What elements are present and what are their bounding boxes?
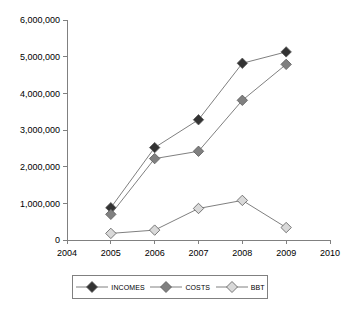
data-point-marker — [149, 225, 159, 235]
data-point-marker — [237, 195, 247, 205]
data-point-marker — [281, 47, 291, 57]
data-point-marker — [106, 209, 116, 219]
chart-container: 01,000,0002,000,0003,000,0004,000,0005,0… — [0, 0, 341, 312]
y-axis-tick-label: 3,000,000 — [20, 125, 60, 135]
data-point-marker — [237, 58, 247, 68]
legend-key-bbt — [215, 280, 249, 294]
x-axis-tick-label: 2007 — [188, 248, 208, 258]
data-series-group — [106, 47, 292, 239]
y-axis: 01,000,0002,000,0003,000,0004,000,0005,0… — [20, 15, 67, 245]
legend-label-costs: COSTS — [185, 284, 210, 291]
x-axis-tick-label: 2004 — [57, 248, 77, 258]
legend-entry-incomes: INCOMES — [75, 280, 144, 294]
y-axis-tick-label: 1,000,000 — [20, 199, 60, 209]
series-line-incomes — [111, 52, 286, 208]
x-axis-tick-label: 2009 — [276, 248, 296, 258]
y-axis-tick-label: 0 — [55, 235, 60, 245]
y-axis-tick-label: 2,000,000 — [20, 162, 60, 172]
data-point-marker — [281, 222, 291, 232]
data-point-marker — [281, 59, 291, 69]
series-line-costs — [111, 64, 286, 214]
legend-key-incomes — [75, 280, 109, 294]
data-point-marker — [149, 153, 159, 163]
line-chart-plot: 01,000,0002,000,0003,000,0004,000,0005,0… — [0, 0, 341, 312]
x-axis-tick-label: 2010 — [320, 248, 340, 258]
legend-entry-costs: COSTS — [149, 280, 210, 294]
legend-label-incomes: INCOMES — [111, 284, 144, 291]
x-axis-tick-label: 2005 — [101, 248, 121, 258]
x-axis-tick-label: 2008 — [232, 248, 252, 258]
data-point-marker — [193, 203, 203, 213]
legend-key-costs — [149, 280, 183, 294]
x-axis: 2004200520062007200820092010 — [57, 240, 340, 258]
chart-legend: INCOMES COSTS BBT — [72, 275, 268, 299]
legend-entry-bbt: BBT — [215, 280, 265, 294]
y-axis-tick-label: 4,000,000 — [20, 89, 60, 99]
legend-label-bbt: BBT — [251, 284, 265, 291]
y-axis-tick-label: 5,000,000 — [20, 52, 60, 62]
data-point-marker — [106, 228, 116, 238]
data-point-marker — [149, 142, 159, 152]
x-axis-tick-label: 2006 — [145, 248, 165, 258]
y-axis-tick-label: 6,000,000 — [20, 15, 60, 25]
data-point-marker — [193, 115, 203, 125]
